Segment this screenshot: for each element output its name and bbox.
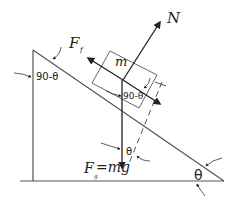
base-angle-label: θ (194, 167, 203, 183)
gravity-equation: =mg (96, 159, 130, 175)
friction-pointer-arrow (53, 47, 61, 59)
block-angle-label: 90-θ (123, 91, 144, 101)
normal-force-arrow (123, 22, 160, 80)
block-angle-pointer-left (106, 91, 121, 96)
gravity-angle-pointer-left (101, 143, 120, 149)
gravity-angle-label: θ (126, 146, 132, 157)
gravity-angle-pointer-right (137, 156, 150, 161)
base-angle-pointer-top (206, 158, 222, 166)
normal-force-label: N (166, 9, 181, 27)
mass-label: m (115, 54, 127, 69)
friction-force-subscript: f (79, 46, 84, 54)
base-angle-pointer-bottom (197, 184, 205, 196)
top-angle-label: 90-θ (36, 71, 58, 82)
inclined-plane-diagram: N F f m F g =mg 90-θ 90-θ θ θ (0, 0, 239, 207)
block-angle-pointer-right (144, 78, 150, 88)
friction-force-label: F (68, 34, 80, 52)
top-angle-pointer (14, 73, 31, 77)
